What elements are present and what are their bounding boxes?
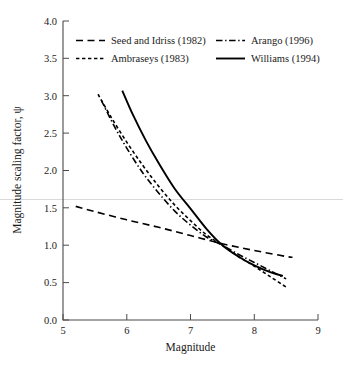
legend-label-seed-and-idriss: Seed and Idriss (1982) bbox=[111, 35, 206, 47]
y-axis-tickmarks bbox=[63, 21, 69, 320]
chart-series-group bbox=[76, 91, 293, 288]
chart-figure: 0.0 0.5 1.0 1.5 2.0 2.5 3.0 3.5 4.0 5 6 … bbox=[0, 0, 343, 371]
series-line-williams bbox=[122, 91, 283, 276]
x-tick-label: 6 bbox=[124, 325, 129, 336]
y-tick-label: 3.5 bbox=[44, 53, 57, 64]
series-line-ambraseys bbox=[98, 94, 286, 287]
x-tick-label: 8 bbox=[252, 325, 257, 336]
y-tick-label: 2.0 bbox=[44, 165, 57, 176]
y-axis-title: Magnitude scaling factor, ψ bbox=[11, 105, 24, 233]
y-tick-label: 0.5 bbox=[44, 277, 57, 288]
magnitude-scaling-factor-chart: 0.0 0.5 1.0 1.5 2.0 2.5 3.0 3.5 4.0 5 6 … bbox=[0, 0, 343, 371]
chart-legend: Seed and Idriss (1982) Arango (1996) Amb… bbox=[76, 35, 320, 65]
legend-label-williams: Williams (1994) bbox=[251, 53, 320, 65]
y-tick-label: 3.0 bbox=[44, 91, 57, 102]
x-axis-tickmarks bbox=[63, 314, 318, 320]
x-axis-tick-labels: 5 6 7 8 9 bbox=[60, 325, 320, 336]
x-tick-label: 7 bbox=[188, 325, 193, 336]
y-axis-tick-labels: 0.0 0.5 1.0 1.5 2.0 2.5 3.0 3.5 4.0 bbox=[44, 16, 57, 326]
x-axis-title: Magnitude bbox=[166, 341, 216, 354]
x-tick-label: 9 bbox=[315, 325, 320, 336]
y-tick-label: 2.5 bbox=[44, 128, 57, 139]
legend-label-ambraseys: Ambraseys (1983) bbox=[111, 53, 189, 65]
x-tick-label: 5 bbox=[60, 325, 65, 336]
series-line-seed-and-idriss bbox=[76, 206, 293, 257]
y-tick-label: 1.0 bbox=[44, 240, 57, 251]
legend-label-arango: Arango (1996) bbox=[251, 35, 314, 47]
y-tick-label: 0.0 bbox=[44, 315, 57, 326]
y-tick-label: 4.0 bbox=[44, 16, 57, 27]
y-tick-label: 1.5 bbox=[44, 203, 57, 214]
